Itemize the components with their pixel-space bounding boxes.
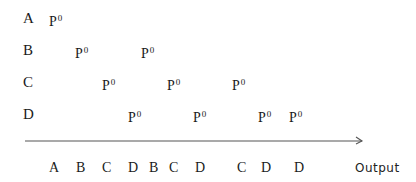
output-item-a: A [49,161,59,175]
output-label: Output [355,161,400,175]
output-item-d: D [195,161,205,175]
output-item-c: C [169,161,178,175]
output-item-c: C [237,161,246,175]
output-item-d: D [128,161,138,175]
output-item-d: D [294,161,304,175]
output-item-b: B [149,161,158,175]
time-axis-arrow [0,0,416,182]
output-item-b: B [76,161,85,175]
output-item-c: C [102,161,111,175]
output-item-d: D [261,161,271,175]
